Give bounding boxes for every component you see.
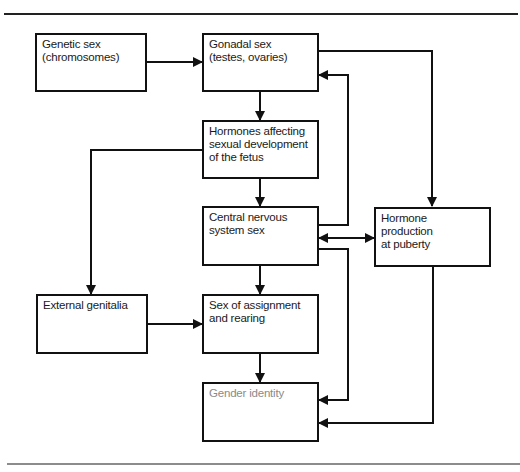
node-hormone-puberty: Hormone production at puberty bbox=[374, 207, 491, 267]
node-label: Hormones affecting sexual development of… bbox=[209, 125, 317, 164]
edge-cns-gonadal bbox=[318, 75, 348, 225]
edge-cns-gender bbox=[318, 249, 348, 400]
edge-fetal-hormones-genitalia bbox=[91, 150, 203, 294]
node-label: Central nervous system sex bbox=[209, 211, 317, 237]
node-external-genitalia: External genitalia bbox=[36, 294, 148, 354]
node-fetal-hormones: Hormones affecting sexual development of… bbox=[202, 120, 319, 179]
node-gender-identity: Gender identity bbox=[202, 382, 319, 442]
node-label: Hormone production at puberty bbox=[381, 212, 489, 251]
node-sex-of-assignment: Sex of assignment and rearing bbox=[202, 294, 319, 354]
node-label: Gender identity bbox=[209, 387, 317, 400]
node-label: External genitalia bbox=[43, 299, 146, 312]
node-cns-sex: Central nervous system sex bbox=[202, 206, 319, 266]
node-gonadal-sex: Gonadal sex (testes, ovaries) bbox=[202, 33, 319, 92]
node-label: Gonadal sex (testes, ovaries) bbox=[209, 38, 317, 64]
node-label: Sex of assignment and rearing bbox=[209, 299, 317, 325]
node-genetic-sex: Genetic sex (chromosomes) bbox=[35, 33, 147, 92]
node-label: Genetic sex (chromosomes) bbox=[42, 38, 145, 64]
